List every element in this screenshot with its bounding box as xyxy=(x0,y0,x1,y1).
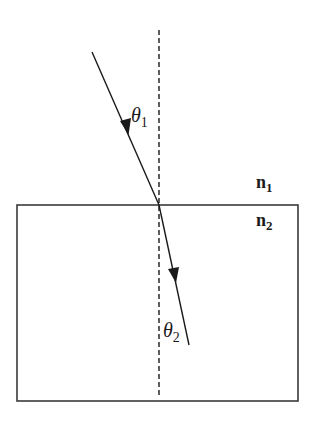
refracted-arrow-icon xyxy=(168,267,179,283)
medium-box xyxy=(17,205,298,401)
n2-label: n2 xyxy=(256,210,273,233)
theta2-label: θ2 xyxy=(163,319,180,345)
n1-label: n1 xyxy=(256,172,273,195)
incident-arrow-icon xyxy=(120,118,131,135)
refraction-diagram: θ1 θ2 n1 n2 xyxy=(0,0,312,421)
theta1-label: θ1 xyxy=(131,104,148,130)
